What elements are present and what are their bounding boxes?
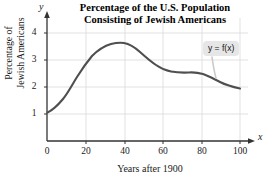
x-axis-label: Years after 1900	[60, 163, 240, 174]
jewish-american-population-chart: Percentage of the U.S. Population Consis…	[0, 0, 274, 183]
chart-title: Percentage of the U.S. Population Consis…	[60, 2, 250, 26]
y-axis-name: y	[39, 1, 43, 12]
y-axis-label-line-2: Jewish Americans	[15, 0, 27, 106]
x-tick-label-0: 0	[37, 146, 57, 156]
x-tick-label-40: 40	[115, 146, 135, 156]
y-axis-label-line-1: Percentage of	[3, 0, 15, 106]
x-tick-label-60: 60	[153, 146, 173, 156]
title-line-two: Consisting of Jewish Americans	[60, 14, 250, 26]
function-callout-label: y = f(x)	[203, 41, 239, 56]
x-tick-label-80: 80	[192, 146, 212, 156]
gridlines	[47, 18, 248, 141]
x-tick-label-100: 100	[229, 146, 251, 156]
x-tick-label-20: 20	[76, 146, 96, 156]
title-line-one: Percentage of the U.S. Population	[60, 2, 250, 14]
x-axis-name: x	[258, 131, 262, 142]
y-tick-label-1: 1	[27, 108, 41, 118]
y-axis-label: Percentage of Jewish Americans	[3, 0, 37, 106]
